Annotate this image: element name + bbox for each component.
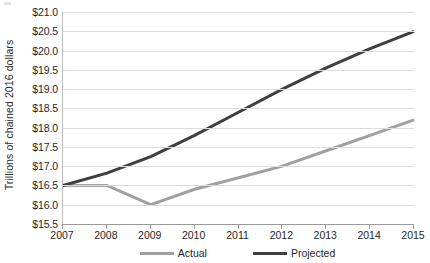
legend-swatch-icon — [140, 252, 174, 255]
x-axis-tick-label: 2014 — [357, 229, 380, 241]
y-axis-tick-label: $20.5 — [32, 25, 58, 37]
legend-item[interactable]: Projected — [253, 247, 335, 259]
y-axis-title-text: Trillions of chained 2016 dollars — [3, 40, 15, 191]
gridline — [63, 70, 414, 71]
y-axis-tick-labels: $15.5$16.0$16.5$17.0$17.5$18.0$18.5$19.0… — [18, 12, 60, 224]
x-axis-tick-label: 2011 — [226, 229, 249, 241]
x-axis-tick-label: 2010 — [182, 229, 205, 241]
x-axis-tick-label: 2013 — [314, 229, 337, 241]
chart-legend: ActualProjected — [62, 245, 413, 261]
x-axis-tick-label: 2008 — [94, 229, 117, 241]
y-axis-tick-label: $17.0 — [32, 160, 58, 172]
y-axis-tick-label: $19.5 — [32, 64, 58, 76]
legend-item[interactable]: Actual — [140, 247, 207, 259]
gridline — [63, 205, 414, 206]
y-axis-tick-label: $18.5 — [32, 102, 58, 114]
chart-figure: Trillions of chained 2016 dollars $15.5$… — [0, 0, 430, 263]
y-axis-tick-label: $18.0 — [32, 122, 58, 134]
gridline — [63, 185, 414, 186]
gridline — [63, 51, 414, 52]
x-axis-tick-label: 2007 — [50, 229, 73, 241]
y-axis-title: Trillions of chained 2016 dollars — [0, 0, 18, 230]
x-axis-tick-label: 2015 — [401, 229, 424, 241]
gridline — [63, 128, 414, 129]
gridline — [63, 108, 414, 109]
gridline — [63, 89, 414, 90]
y-axis-tick-label: $16.0 — [32, 199, 58, 211]
gridline — [63, 12, 414, 13]
y-axis-tick-label: $19.0 — [32, 83, 58, 95]
x-axis-tick-labels: 200720082009201020112012201320142015 — [62, 229, 413, 245]
x-axis-tick-label: 2009 — [138, 229, 161, 241]
y-axis-tick-label: $17.5 — [32, 141, 58, 153]
gridline — [63, 166, 414, 167]
legend-swatch-icon — [253, 252, 287, 255]
plot-area — [62, 12, 414, 225]
y-axis-tick-label: $16.5 — [32, 179, 58, 191]
series-line-actual — [63, 120, 414, 205]
legend-label: Projected — [291, 247, 335, 259]
chart-lines — [63, 12, 414, 224]
gridline — [63, 147, 414, 148]
y-axis-tick-label: $21.0 — [32, 6, 58, 18]
x-axis-tick-label: 2012 — [270, 229, 293, 241]
y-axis-tick-label: $20.0 — [32, 45, 58, 57]
legend-label: Actual — [178, 247, 207, 259]
gridline — [63, 31, 414, 32]
